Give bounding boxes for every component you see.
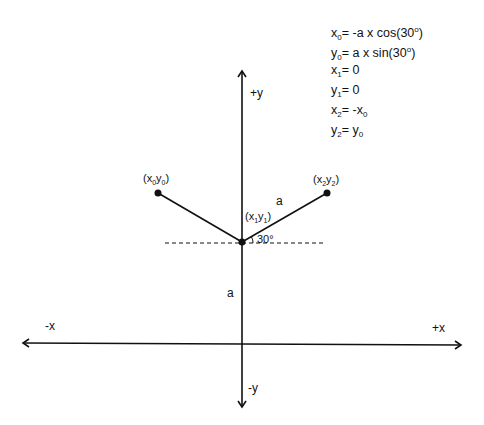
point-1-label: (x1y1) (245, 210, 271, 224)
angle-label: 30° (257, 233, 274, 245)
left-arm-segment (158, 193, 242, 242)
vertical-length-label: a (227, 286, 234, 300)
pos-x-label: +x (432, 321, 445, 335)
equation-y2: y2= y0 (331, 120, 363, 145)
neg-x-label: -x (45, 319, 55, 333)
pos-y-label: +y (250, 86, 263, 100)
angle-arc (252, 237, 254, 243)
point-0 (155, 190, 162, 197)
point-2 (324, 190, 331, 197)
arm-length-label: a (276, 194, 283, 208)
point-2-label: (x2y2) (313, 173, 339, 187)
point-1 (239, 239, 246, 246)
neg-y-label: -y (248, 381, 258, 395)
x-axis (23, 343, 461, 345)
point-0-label: (x0y0) (143, 172, 169, 186)
